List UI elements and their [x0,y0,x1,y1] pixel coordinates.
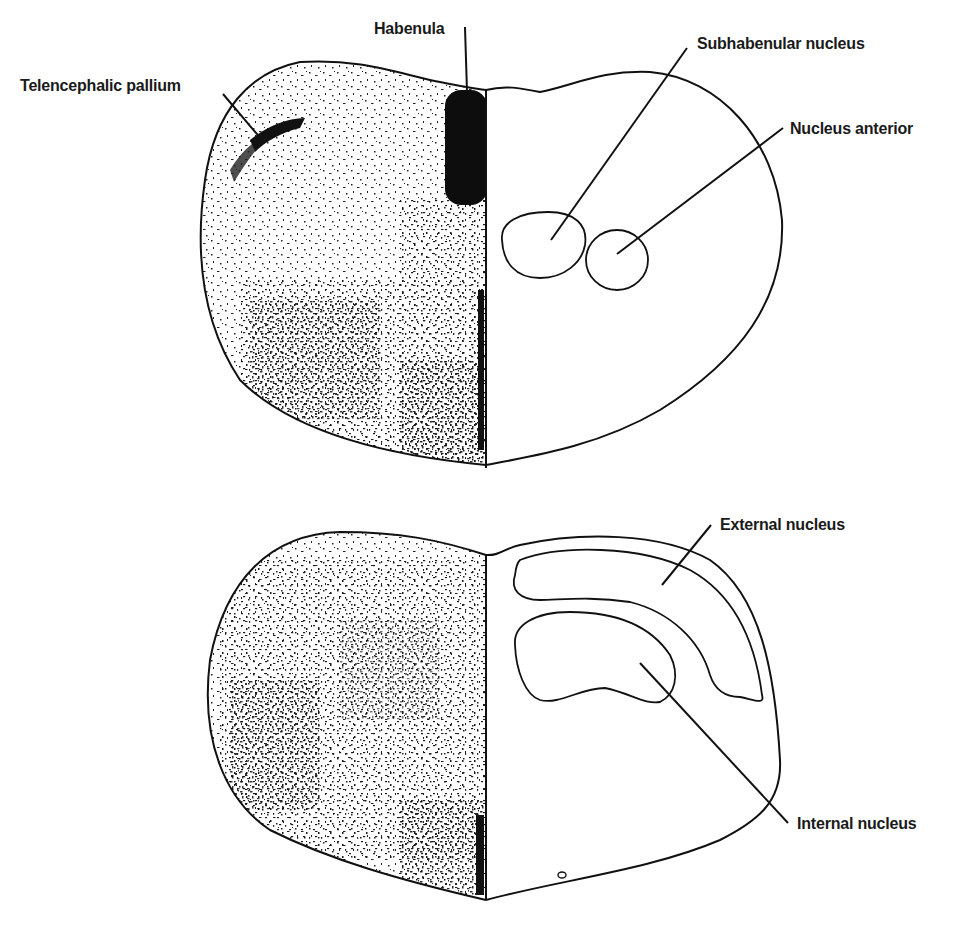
label-telencephalic-pallium: Telencephalic pallium [20,77,181,95]
diagram-canvas [0,0,959,925]
small-vessel-circle [558,872,566,878]
label-subhabenular-nucleus: Subhabenular nucleus [697,35,865,53]
label-external-nucleus: External nucleus [720,516,845,534]
label-habenula: Habenula [374,20,444,38]
upper-section [195,27,783,470]
habenula-leader [465,27,467,92]
internal-nucleus-outline [515,612,675,702]
label-nucleus-anterior: Nucleus anterior [790,120,913,138]
upper-left-stained-tissue [195,55,490,470]
nucleus-anterior-outline [586,230,648,290]
label-internal-nucleus: Internal nucleus [797,815,917,833]
internal-nucleus-leader [640,663,788,823]
nucleus-anterior-leader [617,128,783,254]
external-nucleus-leader [662,525,711,585]
lower-left-stained-tissue [200,525,490,905]
subhabenular-nucleus-leader [551,48,687,240]
subhabenular-nucleus-outline [502,212,586,278]
lower-section [200,525,788,905]
brain-sections-figure: Telencephalic pallium Habenula Subhabenu… [0,0,959,925]
